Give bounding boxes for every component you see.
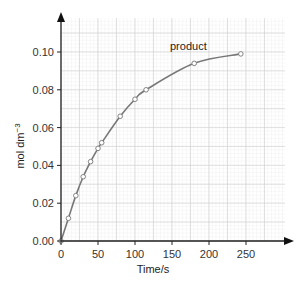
y-axis-arrow-icon — [57, 12, 65, 22]
x-tick-label: 200 — [200, 248, 218, 260]
chart: 0501001502002500.000.020.040.060.080.10 … — [0, 0, 299, 289]
x-axis-title: Time/s — [137, 263, 170, 275]
y-tick-label: 0.10 — [33, 46, 54, 58]
y-tick-label: 0.04 — [33, 159, 54, 171]
data-point — [144, 88, 149, 93]
data-point — [133, 97, 138, 102]
y-tick-label: 0.00 — [33, 235, 54, 247]
data-point — [66, 216, 71, 221]
x-tick-label: 100 — [126, 248, 144, 260]
data-point — [239, 52, 244, 57]
y-tick-label: 0.02 — [33, 197, 54, 209]
data-point — [96, 146, 101, 151]
y-tick-label: 0.08 — [33, 84, 54, 96]
annotation-product: product — [170, 40, 207, 52]
x-axis-arrow-icon — [284, 237, 294, 245]
data-point — [192, 61, 197, 66]
data-point — [81, 174, 86, 179]
data-point — [74, 193, 79, 198]
y-tick-label: 0.06 — [33, 122, 54, 134]
y-axis-title: mol dm−3 — [13, 123, 26, 169]
x-tick-label: 50 — [92, 248, 104, 260]
data-point — [118, 114, 123, 119]
x-tick-label: 0 — [58, 248, 64, 260]
data-point — [88, 159, 93, 164]
data-point — [99, 140, 104, 145]
x-tick-label: 250 — [237, 248, 255, 260]
x-tick-label: 150 — [163, 248, 181, 260]
